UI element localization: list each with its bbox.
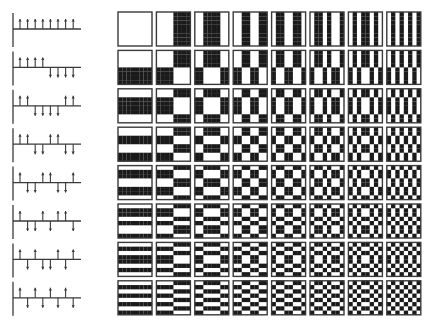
basis-cell-negative xyxy=(139,208,143,212)
basis-cell-negative xyxy=(314,16,318,20)
basis-cell-negative xyxy=(127,102,131,106)
basis-tile-7-5 xyxy=(310,281,344,315)
basis-cell-negative xyxy=(139,187,143,191)
basis-cell-negative xyxy=(242,131,246,135)
basis-cell-negative xyxy=(208,183,212,187)
basis-cell-negative xyxy=(327,16,331,20)
basis-cell-negative xyxy=(374,217,378,221)
basis-cell-negative xyxy=(139,170,143,174)
basis-cell-negative xyxy=(408,114,412,118)
basis-cell-negative xyxy=(353,306,357,310)
basis-cell-negative xyxy=(391,63,395,67)
basis-cell-negative xyxy=(370,67,374,71)
basis-cell-negative xyxy=(203,225,207,229)
basis-cell-negative xyxy=(208,264,212,268)
basis-cell-negative xyxy=(336,268,340,272)
basis-cell-negative xyxy=(319,264,323,268)
basis-cell-negative xyxy=(374,38,378,42)
basis-cell-negative xyxy=(391,29,395,33)
basis-cell-negative xyxy=(314,21,318,25)
basis-cell-negative xyxy=(297,25,301,29)
basis-cell-negative xyxy=(199,221,203,225)
basis-cell-negative xyxy=(220,67,224,71)
basis-cell-negative xyxy=(135,221,139,225)
basis-cell-negative xyxy=(280,178,284,182)
basis-cell-negative xyxy=(161,285,165,289)
basis-cell-negative xyxy=(331,170,335,174)
basis-cell-negative xyxy=(216,306,220,310)
basis-cell-negative xyxy=(246,16,250,20)
basis-cell-negative xyxy=(208,16,212,20)
basis-cell-negative xyxy=(391,59,395,63)
basis-cell-negative xyxy=(293,144,297,148)
basis-cell-negative xyxy=(122,259,126,263)
waveform-arrow-head xyxy=(56,249,59,252)
basis-cell-negative xyxy=(203,114,207,118)
basis-cell-negative xyxy=(319,93,323,97)
basis-cell-negative xyxy=(314,289,318,293)
basis-cell-negative xyxy=(182,251,186,255)
basis-cell-negative xyxy=(289,285,293,289)
basis-cell-negative xyxy=(289,213,293,217)
basis-cell-negative xyxy=(173,225,177,229)
basis-cell-negative xyxy=(412,208,416,212)
basis-cell-negative xyxy=(250,255,254,259)
basis-cell-negative xyxy=(178,264,182,268)
basis-cell-negative xyxy=(327,38,331,42)
basis-cell-negative xyxy=(323,170,327,174)
basis-cell-negative xyxy=(254,153,258,157)
basis-cell-negative xyxy=(327,183,331,187)
basis-cell-negative xyxy=(327,114,331,118)
basis-cell-negative xyxy=(237,213,241,217)
basis-cell-negative xyxy=(408,131,412,135)
waveform-arrow-head xyxy=(34,249,37,252)
basis-cell-negative xyxy=(220,170,224,174)
basis-cell-negative xyxy=(259,298,263,302)
basis-cell-negative xyxy=(289,106,293,110)
basis-cell-negative xyxy=(246,251,250,255)
basis-cell-negative xyxy=(212,148,216,152)
basis-cell-negative xyxy=(331,76,335,80)
basis-cell-negative xyxy=(127,255,131,259)
basis-cell-negative xyxy=(259,55,263,59)
basis-cell-negative xyxy=(370,170,374,174)
basis-cell-negative xyxy=(353,183,357,187)
basis-cell-negative xyxy=(178,251,182,255)
basis-cell-negative xyxy=(127,302,131,306)
basis-cell-negative xyxy=(331,208,335,212)
basis-cell-negative xyxy=(331,174,335,178)
basis-cell-negative xyxy=(336,221,340,225)
basis-cell-negative xyxy=(242,114,246,118)
basis-cell-negative xyxy=(400,114,404,118)
basis-cell-negative xyxy=(173,148,177,152)
basis-cell-negative xyxy=(400,29,404,33)
basis-cell-negative xyxy=(144,110,148,114)
basis-cell-negative xyxy=(276,114,280,118)
basis-cell-negative xyxy=(331,153,335,157)
basis-tile-3-6 xyxy=(348,127,382,161)
basis-cell-negative xyxy=(327,144,331,148)
basis-cell-negative xyxy=(327,25,331,29)
basis-cell-negative xyxy=(361,306,365,310)
basis-cell-negative xyxy=(323,102,327,106)
basis-tile-3-2 xyxy=(195,127,229,161)
basis-cell-negative xyxy=(289,221,293,225)
basis-cell-negative xyxy=(336,97,340,101)
basis-cell-negative xyxy=(323,187,327,191)
basis-cell-negative xyxy=(293,38,297,42)
basis-cell-negative xyxy=(314,63,318,67)
waveform-2 xyxy=(13,90,81,124)
basis-cell-negative xyxy=(169,110,173,114)
basis-cell-negative xyxy=(182,183,186,187)
basis-tile-6-5 xyxy=(310,242,344,276)
basis-cell-negative xyxy=(289,153,293,157)
basis-cell-negative xyxy=(391,16,395,20)
basis-cell-negative xyxy=(161,67,165,71)
basis-cell-negative xyxy=(400,217,404,221)
basis-cell-negative xyxy=(131,97,135,101)
basis-cell-negative xyxy=(169,259,173,263)
basis-cell-negative xyxy=(404,174,408,178)
basis-tile-0-7 xyxy=(387,12,421,46)
basis-cell-negative xyxy=(331,213,335,217)
basis-cell-negative xyxy=(404,72,408,76)
